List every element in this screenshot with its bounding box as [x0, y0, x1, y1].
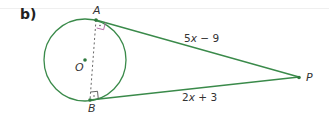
- tangent-AP: [96, 20, 299, 77]
- length-BP: 2x + 3: [182, 91, 217, 103]
- label-O: O: [75, 61, 84, 74]
- label-P: P: [306, 71, 313, 84]
- right-angle-B-icon: [91, 91, 99, 99]
- point-P: [297, 76, 301, 80]
- tangent-diagram: [0, 0, 329, 113]
- label-B: B: [88, 102, 96, 113]
- diameter-AB: [90, 20, 96, 100]
- length-AP: 5x − 9: [184, 32, 219, 44]
- point-A: [94, 18, 98, 22]
- label-A: A: [93, 4, 101, 17]
